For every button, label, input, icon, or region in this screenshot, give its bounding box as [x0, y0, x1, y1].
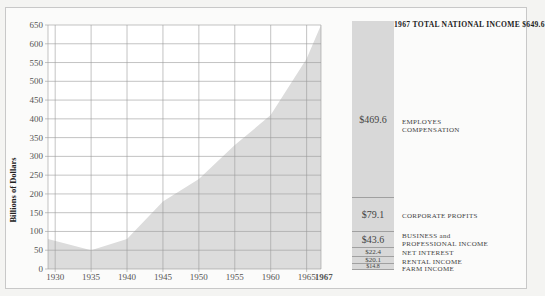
- y-axis-label: Billions of Dollars: [8, 120, 24, 260]
- x-tick-label: 1935: [82, 272, 101, 282]
- segment-label: FARM INCOME: [402, 265, 454, 273]
- segment-value: $22.4: [352, 248, 394, 256]
- y-tick-label: 350: [30, 133, 44, 143]
- x-tick-label: 1955: [226, 272, 245, 282]
- x-tick-label: 1960: [262, 272, 281, 282]
- y-tick-label: 0: [39, 264, 44, 274]
- y-tick-label: 400: [30, 114, 44, 124]
- y-tick-label: 200: [30, 189, 44, 199]
- y-tick-label: 250: [30, 170, 44, 180]
- segment-label: NET INTEREST: [402, 249, 454, 257]
- y-tick-label: 300: [30, 151, 44, 161]
- y-tick-label: 550: [30, 58, 44, 68]
- segment-value: $43.6: [352, 234, 394, 245]
- stacked-segment: [352, 21, 394, 198]
- x-tick-label: 1945: [154, 272, 173, 282]
- y-tick-label: 100: [30, 226, 44, 236]
- x-tick-label: 1965: [298, 272, 317, 282]
- segment-label: EMPLOYESCOMPENSATION: [402, 118, 460, 134]
- segment-label: CORPORATE PROFITS: [402, 212, 478, 220]
- stacked-bar-title: 1967 TOTAL NATIONAL INCOME $649.6: [394, 20, 545, 29]
- y-tick-label: 150: [30, 208, 44, 218]
- x-tick-label: 1967: [315, 272, 334, 282]
- segment-value: $79.1: [352, 209, 394, 220]
- segment-value: $469.6: [352, 114, 394, 125]
- x-tick-label: 1930: [46, 272, 65, 282]
- x-tick-label: 1940: [118, 272, 137, 282]
- y-tick-label: 50: [34, 245, 44, 255]
- y-tick-label: 450: [30, 95, 44, 105]
- segment-label: BUSINESS andPROFESSIONAL INCOME: [402, 232, 488, 248]
- y-tick-label: 650: [30, 20, 44, 30]
- x-tick-label: 1950: [190, 272, 209, 282]
- y-tick-label: 500: [30, 76, 44, 86]
- y-tick-label: 600: [30, 39, 44, 49]
- segment-value: $14.8: [352, 263, 394, 269]
